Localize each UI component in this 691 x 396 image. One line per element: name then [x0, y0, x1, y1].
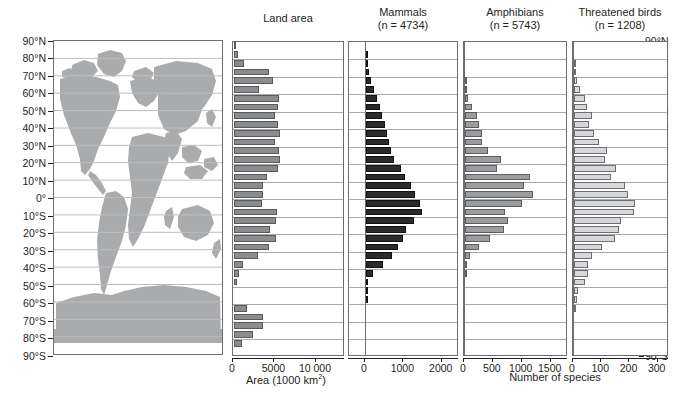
bar-amphibians-20-15N [465, 165, 497, 172]
bar-threatened-birds-75-70N [574, 69, 576, 76]
bar-threatened-birds-55-60S [574, 296, 577, 303]
latitude-label--80: 80°S [2, 333, 46, 343]
bar-land-area-55-50N [234, 104, 278, 111]
bar-amphibians-0-5S [465, 200, 522, 207]
bar-mammals-60-55N [366, 95, 377, 102]
latitude-tick [48, 251, 53, 252]
bar-land-area-30-35S [234, 252, 258, 259]
bar-land-area-25-30S [234, 244, 269, 251]
bar-threatened-birds-60-55N [574, 95, 585, 102]
world-map-svg [54, 41, 222, 354]
bar-threatened-birds-60-65S [574, 305, 576, 312]
bar-land-area-50-45N [234, 112, 275, 119]
gridline [233, 287, 343, 288]
latitude-tick [48, 216, 53, 217]
x-tick [463, 358, 464, 362]
latitude-tick [639, 356, 644, 357]
bar-mammals-35-40S [366, 261, 383, 268]
bar-land-area-35-30N [234, 139, 275, 146]
latitude-label--50: 50°S [2, 281, 46, 291]
bar-threatened-birds-30-25N [574, 147, 607, 154]
bar-amphibians-40-35N [465, 130, 482, 137]
bar-threatened-birds-30-35S [574, 252, 592, 259]
latitude-tick [48, 198, 53, 199]
bar-land-area-75-70N [234, 69, 269, 76]
x-tick [441, 358, 442, 362]
bar-mammals-25-20N [366, 156, 394, 163]
bar-amphibians-20-25S [465, 235, 490, 242]
latitude-tick [48, 146, 53, 147]
bar-land-area-60-55N [234, 95, 279, 102]
bar-threatened-birds-45-40N [574, 121, 589, 128]
bar-mammals-65-60N [366, 86, 374, 93]
bar-threatened-birds-35-30N [574, 139, 599, 146]
x-tick [657, 358, 658, 362]
gridline [233, 304, 343, 305]
gridline [464, 339, 566, 340]
bar-land-area-20-15N [234, 165, 278, 172]
bar-threatened-birds-0-5S [574, 200, 635, 207]
gridline [464, 94, 566, 95]
latitude-tick [48, 181, 53, 182]
latitude-tick [48, 93, 53, 94]
x-tick [600, 358, 601, 362]
x-axis-line-amphibians [463, 358, 567, 359]
x-tick [402, 358, 403, 362]
x-axis-line-threatened-birds [572, 358, 668, 359]
bar-mammals-45-40N [366, 121, 385, 128]
latitude-label-60: 60°N [2, 88, 46, 98]
bar-land-area-30-25N [234, 147, 279, 154]
bar-amphibians-10-15S [465, 217, 508, 224]
x-tick [492, 358, 493, 362]
gridline [464, 59, 566, 60]
left-axis-title: Area (1000 km2) [228, 371, 344, 386]
bar-land-area-35-40S [234, 261, 243, 268]
bar-amphibians-35-30N [465, 139, 482, 146]
latitude-tick [48, 163, 53, 164]
bar-threatened-birds-25-30S [574, 244, 602, 251]
figure-root: 90°N80°N70°N60°N50°N40°N30°N20°N10°N0°10… [0, 0, 691, 396]
bar-threatened-birds-10-5N [574, 182, 625, 189]
bar-mammals-30-25N [366, 147, 391, 154]
latitude-tick [48, 286, 53, 287]
bar-amphibians-60-55N [465, 95, 468, 102]
right-axis-title: Number of species [455, 371, 655, 383]
latitude-label-40: 40°N [2, 123, 46, 133]
bar-land-area-5-0N [234, 191, 263, 198]
gridline [573, 94, 667, 95]
latitude-label-10: 10°N [2, 176, 46, 186]
latitude-label-30: 30°N [2, 141, 46, 151]
gridline [573, 322, 667, 323]
bar-land-area-25-20N [234, 156, 280, 163]
bar-mammals-20-15N [366, 165, 401, 172]
latitude-label-0: 0° [2, 193, 46, 203]
gridline [233, 59, 343, 60]
bar-threatened-birds-20-25S [574, 235, 615, 242]
bar-threatened-birds-5-0N [574, 191, 628, 198]
bar-threatened-birds-20-15N [574, 165, 616, 172]
bar-land-area-40-35N [234, 130, 280, 137]
bar-threatened-birds-55-50N [574, 104, 587, 111]
bar-amphibians-55-50N [465, 104, 472, 111]
bar-threatened-birds-40-35N [574, 130, 594, 137]
bar-land-area-65-60N [234, 86, 259, 93]
bar-amphibians-45-40N [465, 121, 479, 128]
x-tick [273, 358, 274, 362]
latitude-label--40: 40°S [2, 263, 46, 273]
latitude-label-20: 20°N [2, 158, 46, 168]
bar-amphibians-25-30S [465, 244, 479, 251]
bar-amphibians-5-10S [465, 209, 505, 216]
bar-mammals-5-10S [366, 209, 422, 216]
latitude-tick [48, 268, 53, 269]
latitude-label--60: 60°S [2, 298, 46, 308]
bar-mammals-40-35N [366, 130, 387, 137]
x-tick [232, 358, 233, 362]
bar-threatened-birds-15-20S [574, 226, 619, 233]
bar-mammals-25-30S [366, 244, 398, 251]
bar-mammals-45-50S [366, 279, 368, 286]
x-tick [521, 358, 522, 362]
bar-land-area-60-65S [234, 305, 247, 312]
bar-amphibians-25-20N [465, 156, 501, 163]
bar-mammals-85-80N [366, 51, 368, 58]
bar-land-area-5-10S [234, 209, 277, 216]
